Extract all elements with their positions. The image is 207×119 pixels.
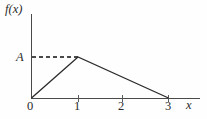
x-tick-label-3: 3 [165,100,171,113]
level-a-label: A [16,51,24,64]
x-tick-label-2: 2 [118,100,124,113]
y-axis-label: f(x) [5,3,22,16]
x-tick-label-1: 1 [74,100,80,113]
density-curve [32,57,169,98]
x-axis-label: x [186,99,192,112]
figure-container: f(x) A x 0 1 2 3 [0,0,207,119]
x-tick-label-0: 0 [27,100,33,113]
